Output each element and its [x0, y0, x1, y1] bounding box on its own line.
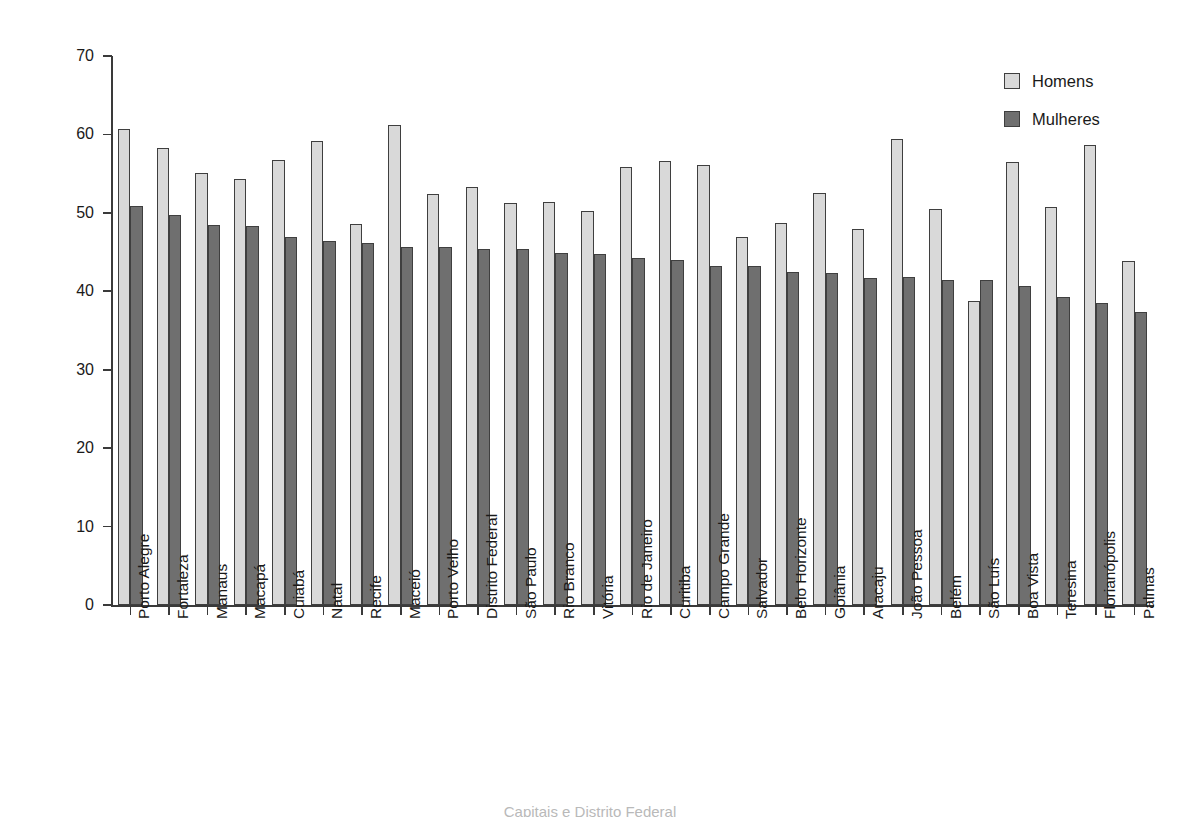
bar-mulheres — [826, 273, 838, 605]
bar-mulheres — [285, 237, 297, 605]
x-tick-mark — [941, 606, 943, 615]
x-tick-label: São Luís — [986, 558, 1002, 619]
bar-homens — [350, 224, 362, 605]
bar-group — [350, 56, 375, 605]
bar-homens — [697, 165, 709, 605]
bar-group — [852, 56, 877, 605]
bar-homens — [1084, 145, 1096, 605]
bar-homens — [1045, 207, 1057, 605]
x-tick-label: Natal — [329, 583, 345, 619]
y-tick-label: 40 — [34, 283, 94, 299]
x-tick-mark — [516, 606, 518, 615]
x-tick-label: Campo Grande — [716, 513, 732, 619]
x-tick-mark — [130, 606, 132, 615]
x-tick-label: Belém — [948, 575, 964, 619]
bar-homens — [852, 229, 864, 605]
x-tick-mark — [361, 606, 363, 615]
bar-homens — [427, 194, 439, 605]
x-tick-label: Curitiba — [677, 566, 693, 619]
x-tick-label: São Paulo — [523, 547, 539, 619]
x-tick-mark — [593, 606, 595, 615]
x-tick-label: Porto Alegre — [136, 534, 152, 619]
bar-homens — [118, 129, 130, 605]
bar-mulheres — [401, 247, 413, 605]
x-tick-mark — [207, 606, 209, 615]
x-tick-mark — [439, 606, 441, 615]
bar-homens — [466, 187, 478, 605]
y-tick-label: 0 — [34, 597, 94, 613]
bar-group — [234, 56, 259, 605]
y-axis-title: Percentual — [16, 0, 44, 84]
bar-group — [504, 56, 529, 605]
x-tick-label: Salvador — [754, 558, 770, 619]
bar-mulheres — [671, 260, 683, 605]
bar-group — [1006, 56, 1031, 605]
x-tick-mark — [168, 606, 170, 615]
bar-group — [968, 56, 993, 605]
bar-mulheres — [864, 278, 876, 605]
x-tick-mark — [825, 606, 827, 615]
bar-group — [427, 56, 452, 605]
x-tick-mark — [670, 606, 672, 615]
bar-homens — [157, 148, 169, 605]
bar-homens — [195, 173, 207, 605]
bar-homens — [813, 193, 825, 605]
x-tick-label: Florianópolis — [1102, 531, 1118, 619]
x-tick-label: Goiânia — [832, 566, 848, 619]
bar-group — [929, 56, 954, 605]
legend-item: Homens — [1004, 62, 1174, 100]
bar-mulheres — [1057, 297, 1069, 605]
bar-mulheres — [246, 226, 258, 605]
figure-caption: Capitais e Distrito Federal — [0, 803, 1180, 817]
x-tick-mark — [1018, 606, 1020, 615]
bar-homens — [968, 301, 980, 605]
y-tick-label: 30 — [34, 362, 94, 378]
x-tick-mark — [632, 606, 634, 615]
y-tick-label: 60 — [34, 126, 94, 142]
x-tick-label: Distrito Federal — [484, 514, 500, 619]
bar-homens — [929, 209, 941, 605]
x-tick-mark — [863, 606, 865, 615]
x-tick-label: Manaus — [214, 564, 230, 619]
x-tick-mark — [554, 606, 556, 615]
bar-mulheres — [748, 266, 760, 605]
x-tick-label: Porto Velho — [445, 539, 461, 619]
bar-group — [543, 56, 568, 605]
bar-mulheres — [942, 280, 954, 605]
x-tick-mark — [284, 606, 286, 615]
x-tick-label: Cuiabá — [291, 570, 307, 619]
x-tick-mark — [245, 606, 247, 615]
bar-homens — [543, 202, 555, 605]
legend-swatch-mulheres — [1004, 111, 1020, 127]
y-tick-label: 50 — [34, 205, 94, 221]
bar-group — [157, 56, 182, 605]
bar-group — [1122, 56, 1147, 605]
x-tick-label: Fortaleza — [175, 554, 191, 619]
bar-homens — [1006, 162, 1018, 605]
x-tick-label: Palmas — [1141, 567, 1157, 619]
bar-mulheres — [980, 280, 992, 605]
y-tick-label: 70 — [34, 48, 94, 64]
bar-homens — [736, 237, 748, 605]
x-tick-label: Belo Horizonte — [793, 517, 809, 619]
plot-area — [111, 56, 1154, 605]
x-tick-mark — [1057, 606, 1059, 615]
bar-group — [891, 56, 916, 605]
bar-group — [388, 56, 413, 605]
bar-homens — [1122, 261, 1134, 605]
bar-homens — [891, 139, 903, 605]
bar-group — [195, 56, 220, 605]
bar-homens — [234, 179, 246, 605]
x-tick-label: Rio Branco — [561, 542, 577, 619]
chart-legend: HomensMulheres — [1004, 62, 1174, 138]
x-tick-mark — [786, 606, 788, 615]
bar-group — [311, 56, 336, 605]
x-tick-label: Teresina — [1063, 560, 1079, 619]
x-tick-label: Maceió — [407, 569, 423, 619]
legend-label: Mulheres — [1032, 111, 1100, 128]
bar-mulheres — [323, 241, 335, 605]
x-tick-mark — [902, 606, 904, 615]
bar-homens — [775, 223, 787, 605]
bar-homens — [504, 203, 516, 605]
y-axis-title-container: Percentual — [0, 56, 28, 605]
